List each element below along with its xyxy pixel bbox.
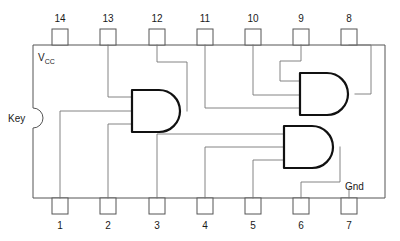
pin-number-2: 2: [105, 220, 111, 231]
wire-pin13-to-gate1-inA: [108, 45, 132, 97]
and-gate-2[interactable]: [300, 73, 348, 115]
wire-pin2-to-gate1-inC: [108, 124, 132, 198]
pin-tab-10[interactable]: [245, 29, 261, 45]
wire-pin5-to-gate3-inC: [253, 160, 284, 198]
and-gate-1[interactable]: [132, 90, 180, 132]
pin-tab-9[interactable]: [293, 29, 309, 45]
internal-wiring: [60, 45, 371, 198]
wire-pin4-to-gate3-inB: [205, 147, 284, 198]
ic-pinout-diagram: 14 13 12 11 10 9 8 1 2 3 4 5 6 7 VCC Key…: [0, 0, 400, 241]
pin-number-1: 1: [57, 220, 63, 231]
pin-number-9: 9: [298, 13, 304, 24]
pin-tab-11[interactable]: [197, 29, 213, 45]
pin-tab-2[interactable]: [100, 198, 116, 214]
wire-gate2-out-to-pin8: [349, 45, 371, 94]
wire-pin3-to-gate3-inA: [157, 134, 284, 198]
vcc-label: VCC: [38, 52, 55, 65]
pin-number-11: 11: [200, 13, 211, 24]
top-pin-numbers: 14 13 12 11 10 9 8: [54, 13, 352, 24]
bottom-pin-numbers: 1 2 3 4 5 6 7: [57, 220, 352, 231]
pin-tab-4[interactable]: [197, 198, 213, 214]
wire-pin10-to-gate2-inB: [253, 45, 300, 95]
pin-number-12: 12: [151, 13, 163, 24]
pin-tab-13[interactable]: [100, 29, 116, 45]
pin-number-6: 6: [298, 220, 304, 231]
and-gate-3[interactable]: [284, 126, 333, 168]
package-body-outline: [33, 45, 385, 198]
pin-number-14: 14: [54, 13, 66, 24]
pin-number-7: 7: [346, 220, 352, 231]
pin-tab-6[interactable]: [293, 198, 309, 214]
pin-number-8: 8: [346, 13, 352, 24]
pin-tab-1[interactable]: [52, 198, 68, 214]
top-pin-tabs: [52, 29, 357, 45]
key-label: Key: [8, 113, 25, 124]
pin-number-4: 4: [202, 220, 208, 231]
pin-tab-8[interactable]: [341, 29, 357, 45]
pin-number-3: 3: [154, 220, 160, 231]
pin-tab-12[interactable]: [149, 29, 165, 45]
pin-tab-3[interactable]: [149, 198, 165, 214]
pin-tab-14[interactable]: [52, 29, 68, 45]
pin-number-13: 13: [102, 13, 114, 24]
gnd-label: Gnd: [345, 181, 364, 192]
wire-pin11-to-gate2-inC: [205, 45, 300, 108]
bottom-pin-tabs: [52, 198, 357, 214]
pin-tab-5[interactable]: [245, 198, 261, 214]
vcc-label-sub: CC: [45, 58, 55, 65]
pin-number-10: 10: [247, 13, 259, 24]
pin-number-5: 5: [250, 220, 256, 231]
wire-pin9-to-gate2-inA: [280, 45, 301, 81]
pin-tab-7[interactable]: [341, 198, 357, 214]
ic-diagram-svg: 14 13 12 11 10 9 8 1 2 3 4 5 6 7 VCC Key…: [0, 0, 400, 241]
